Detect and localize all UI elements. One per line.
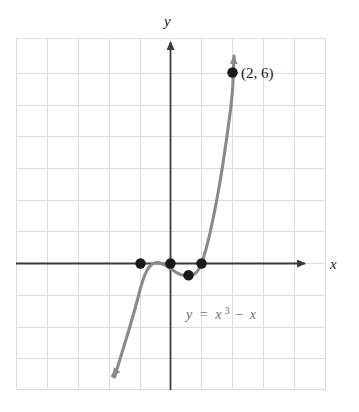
cubic-plot-svg: x y (2, 6) y = x 3 − x xyxy=(0,0,359,412)
equation-minus: − xyxy=(235,307,243,322)
x-axis-label: x xyxy=(329,256,337,272)
equation-lhs: y xyxy=(184,307,193,322)
point-root-right xyxy=(196,258,206,268)
point-2-6 xyxy=(227,67,237,77)
annotation-point-2-6: (2, 6) xyxy=(241,65,274,82)
equation-exponent: 3 xyxy=(225,305,230,316)
equation-equals: = xyxy=(200,307,208,322)
point-local-max xyxy=(135,258,145,268)
y-axis-label: y xyxy=(162,13,171,29)
plot-background xyxy=(0,0,359,412)
equation-term: x xyxy=(249,307,257,322)
equation-base: x xyxy=(214,307,222,322)
graph-figure: x y (2, 6) y = x 3 − x xyxy=(0,0,359,412)
point-local-min xyxy=(183,270,193,280)
point-origin xyxy=(165,258,175,268)
